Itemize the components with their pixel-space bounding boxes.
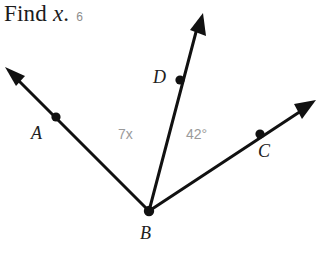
ray-bd bbox=[149, 13, 206, 211]
point-label-d: D bbox=[153, 68, 166, 86]
point-d-dot bbox=[175, 75, 184, 84]
ray-bc-arrowhead bbox=[294, 100, 316, 119]
point-label-a: A bbox=[31, 124, 42, 142]
angle-diagram: A B C D 7x 42° bbox=[0, 0, 323, 261]
angle-measure-abd: 7x bbox=[118, 126, 133, 142]
worksheet-page: Find x. 6 bbox=[0, 0, 323, 261]
angle-measure-dbc: 42° bbox=[186, 126, 207, 142]
point-label-b: B bbox=[140, 224, 151, 242]
ray-bd-arrowhead bbox=[190, 13, 206, 36]
point-label-c: C bbox=[258, 142, 270, 160]
ray-ba-line bbox=[18, 80, 149, 211]
diagram-canvas bbox=[0, 0, 323, 261]
point-a-dot bbox=[51, 112, 60, 121]
point-c-dot bbox=[255, 129, 264, 138]
